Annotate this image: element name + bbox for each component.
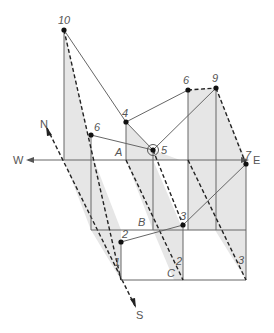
label-edge-1: 1 <box>114 256 120 268</box>
point-7 <box>243 161 248 166</box>
point-4 <box>123 119 128 124</box>
line-4-6 <box>126 90 188 122</box>
label-4: 4 <box>122 107 128 119</box>
point-2 <box>118 239 123 244</box>
shade-plane-1 <box>91 230 121 280</box>
south-arrow-icon <box>130 298 136 308</box>
label-2: 2 <box>121 228 128 240</box>
point-9 <box>213 85 218 90</box>
label-edge-2: 2 <box>175 255 182 267</box>
point-5 <box>150 147 155 152</box>
label-6a: 6 <box>94 121 101 133</box>
label-10: 10 <box>58 14 71 26</box>
point-10 <box>61 27 66 32</box>
shade-plane-front-left <box>64 160 121 230</box>
label-north: N <box>40 118 48 130</box>
point-6a <box>88 132 93 137</box>
point-6b <box>185 87 190 92</box>
label-east: E <box>253 154 260 166</box>
label-7: 7 <box>245 149 252 161</box>
shade-plane-69 <box>188 88 246 160</box>
label-3: 3 <box>180 210 187 222</box>
label-C: C <box>167 267 175 279</box>
label-A: A <box>114 146 122 158</box>
west-arrow-icon <box>26 157 34 163</box>
label-west: W <box>13 154 24 166</box>
label-5: 5 <box>161 144 168 156</box>
label-6b: 6 <box>183 74 190 86</box>
point-3 <box>180 222 185 227</box>
label-edge-3: 3 <box>238 254 245 266</box>
block-diagram: 10 6 4 5 6 9 7 3 2 A B C 1 2 3 N S W E <box>0 0 274 333</box>
label-B: B <box>138 216 145 228</box>
label-south: S <box>136 309 143 321</box>
label-9: 9 <box>212 72 218 84</box>
